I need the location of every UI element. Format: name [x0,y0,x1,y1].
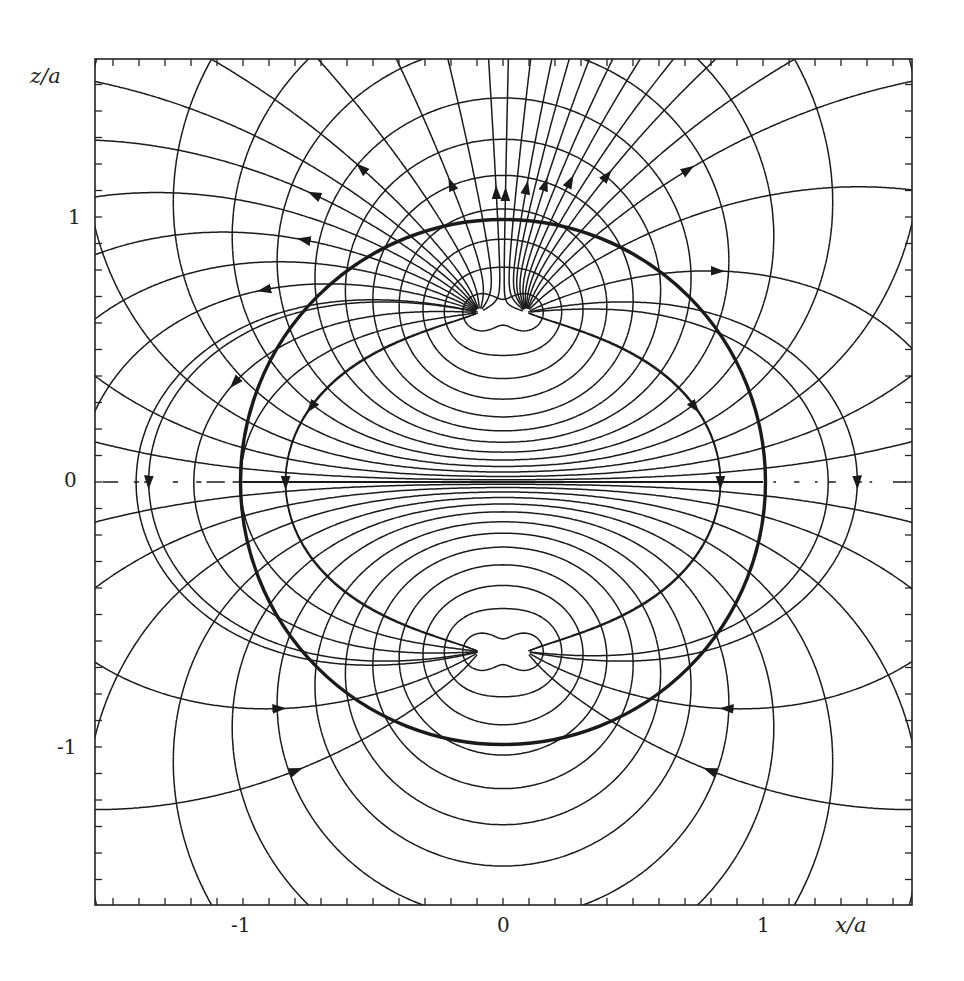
y-tick-label-0: 0 [64,468,77,492]
x-tick-label-neg1: -1 [231,913,250,937]
plot-area [81,41,925,922]
x-tick-label-1: 1 [757,913,770,937]
y-axis-title: z/a [30,64,61,88]
y-tick-label-neg1: -1 [57,735,76,759]
field-line-plot [0,0,964,981]
field-lines [81,41,925,810]
y-tick-label-1: 1 [68,205,81,229]
x-tick-label-0: 0 [497,913,510,937]
x-axis-title: x/a [835,913,866,937]
